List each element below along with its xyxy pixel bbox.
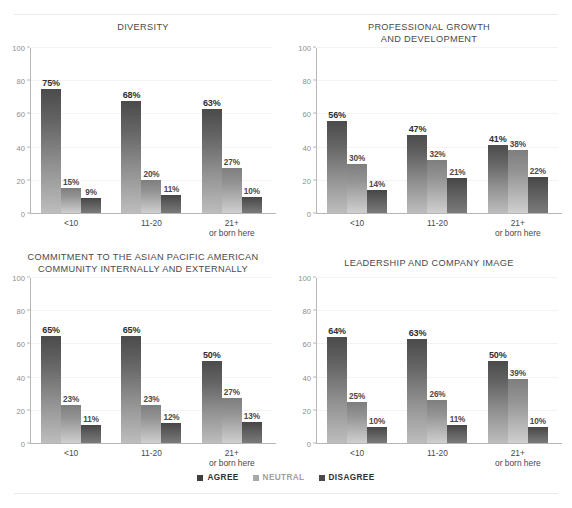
bar-neutral[interactable]: 27% (222, 168, 242, 213)
x-tick-label: <10 (317, 218, 397, 238)
bar-slot: 20% (141, 48, 161, 213)
bar-value-label: 38% (510, 140, 526, 149)
bar-disagree[interactable]: 10% (367, 427, 387, 444)
bar-group: 63%27%10% (192, 48, 272, 213)
bar-slot: 32% (427, 48, 447, 213)
bar-disagree[interactable]: 21% (447, 178, 467, 213)
bar-value-label: 13% (244, 412, 260, 421)
bar-agree[interactable]: 47% (407, 135, 427, 213)
bar-agree[interactable]: 68% (121, 101, 141, 213)
y-tick-mark (27, 376, 30, 377)
legend-item-disagree[interactable]: DISAGREE (319, 473, 375, 482)
panel-title: PROFESSIONAL GROWTH AND DEVELOPMENT (286, 22, 572, 45)
bar-disagree[interactable]: 11% (447, 425, 467, 443)
bar-container: 65%23%11%65%23%12%50%27%13% (31, 278, 272, 443)
bar-neutral[interactable]: 27% (222, 398, 242, 443)
y-tick-label: 80 (17, 77, 25, 86)
bar-neutral[interactable]: 20% (141, 180, 161, 213)
bar-agree[interactable]: 64% (327, 337, 347, 443)
bar-slot: 27% (222, 48, 242, 213)
y-tick-mark (313, 179, 316, 180)
bar-disagree[interactable]: 10% (242, 197, 262, 214)
x-tick-labels: <1011-2021+ or born here (317, 448, 558, 468)
bar-disagree[interactable]: 14% (367, 190, 387, 213)
y-tick-mark (313, 47, 316, 48)
x-tick-labels: <1011-2021+ or born here (31, 218, 272, 238)
bar-agree[interactable]: 65% (121, 336, 141, 443)
bar-group: 64%25%10% (317, 278, 397, 443)
y-tick-mark (313, 343, 316, 344)
bar-value-label: 39% (510, 369, 526, 378)
bar-neutral[interactable]: 23% (141, 405, 161, 443)
bar-slot: 68% (121, 48, 141, 213)
y-tick-mark (313, 80, 316, 81)
bar-neutral[interactable]: 23% (61, 405, 81, 443)
bar-slot: 65% (41, 278, 61, 443)
bar-value-label: 11% (83, 415, 99, 424)
bar-value-label: 30% (349, 154, 365, 163)
panel-title: COMMITMENT TO THE ASIAN PACIFIC AMERICAN… (0, 252, 286, 275)
bar-slot: 39% (508, 278, 528, 443)
bar-agree[interactable]: 63% (202, 109, 222, 213)
bar-agree[interactable]: 75% (41, 89, 61, 213)
bar-group: 41%38%22% (478, 48, 558, 213)
plot-area: 020406080100 75%15%9%68%20%11%63%27%10% … (30, 48, 272, 214)
bar-neutral[interactable]: 39% (508, 379, 528, 443)
x-axis-line (316, 443, 562, 444)
bar-agree[interactable]: 50% (202, 361, 222, 444)
bar-value-label: 21% (449, 168, 465, 177)
bar-value-label: 65% (123, 325, 141, 335)
bar-disagree[interactable]: 13% (242, 422, 262, 443)
bar-group: 56%30%14% (317, 48, 397, 213)
bar-agree[interactable]: 50% (488, 361, 508, 444)
bar-neutral[interactable]: 26% (427, 400, 447, 443)
bar-disagree[interactable]: 12% (161, 423, 181, 443)
bar-neutral[interactable]: 25% (347, 402, 367, 443)
bar-agree[interactable]: 63% (407, 339, 427, 443)
bar-disagree[interactable]: 11% (81, 425, 101, 443)
legend-item-neutral[interactable]: NEUTRAL (253, 473, 305, 482)
bar-slot: 63% (202, 48, 222, 213)
bar-agree[interactable]: 56% (327, 121, 347, 213)
bar-agree[interactable]: 41% (488, 145, 508, 213)
panel-title: LEADERSHIP AND COMPANY IMAGE (286, 258, 572, 270)
y-tick-mark (313, 409, 316, 410)
y-tick-mark (313, 310, 316, 311)
bar-value-label: 50% (203, 350, 221, 360)
bar-slot: 25% (347, 278, 367, 443)
bar-group: 50%27%13% (192, 278, 272, 443)
legend-item-agree[interactable]: AGREE (197, 473, 238, 482)
bar-slot: 11% (81, 278, 101, 443)
bar-agree[interactable]: 65% (41, 336, 61, 443)
bar-neutral[interactable]: 38% (508, 150, 528, 213)
bar-disagree[interactable]: 10% (528, 427, 548, 444)
y-tick-mark (27, 113, 30, 114)
bar-slot: 11% (447, 278, 467, 443)
y-tick-mark (313, 213, 316, 214)
bottom-divider (14, 493, 558, 494)
bar-neutral[interactable]: 30% (347, 164, 367, 214)
y-tick-label: 20 (303, 176, 311, 185)
x-tick-label: 11-20 (397, 218, 477, 238)
bar-value-label: 56% (328, 110, 346, 120)
bar-neutral[interactable]: 15% (61, 188, 81, 213)
legend-label: DISAGREE (329, 473, 375, 482)
bar-slot: 50% (202, 278, 222, 443)
y-tick-label: 0 (21, 210, 25, 219)
bar-disagree[interactable]: 22% (528, 177, 548, 213)
bar-value-label: 47% (409, 124, 427, 134)
chart-panel-commitment: COMMITMENT TO THE ASIAN PACIFIC AMERICAN… (0, 250, 286, 458)
bar-slot: 30% (347, 48, 367, 213)
y-tick-label: 20 (17, 176, 25, 185)
bar-slot: 11% (161, 48, 181, 213)
y-tick-mark (27, 47, 30, 48)
bar-slot: 13% (242, 278, 262, 443)
bar-disagree[interactable]: 9% (81, 198, 101, 213)
axes: 020406080100 56%30%14%47%32%21%41%38%22%… (316, 48, 558, 214)
bar-value-label: 27% (224, 158, 240, 167)
bar-slot: 75% (41, 48, 61, 213)
bar-value-label: 32% (429, 150, 445, 159)
bar-neutral[interactable]: 32% (427, 160, 447, 213)
y-tick-mark (27, 310, 30, 311)
bar-disagree[interactable]: 11% (161, 195, 181, 213)
